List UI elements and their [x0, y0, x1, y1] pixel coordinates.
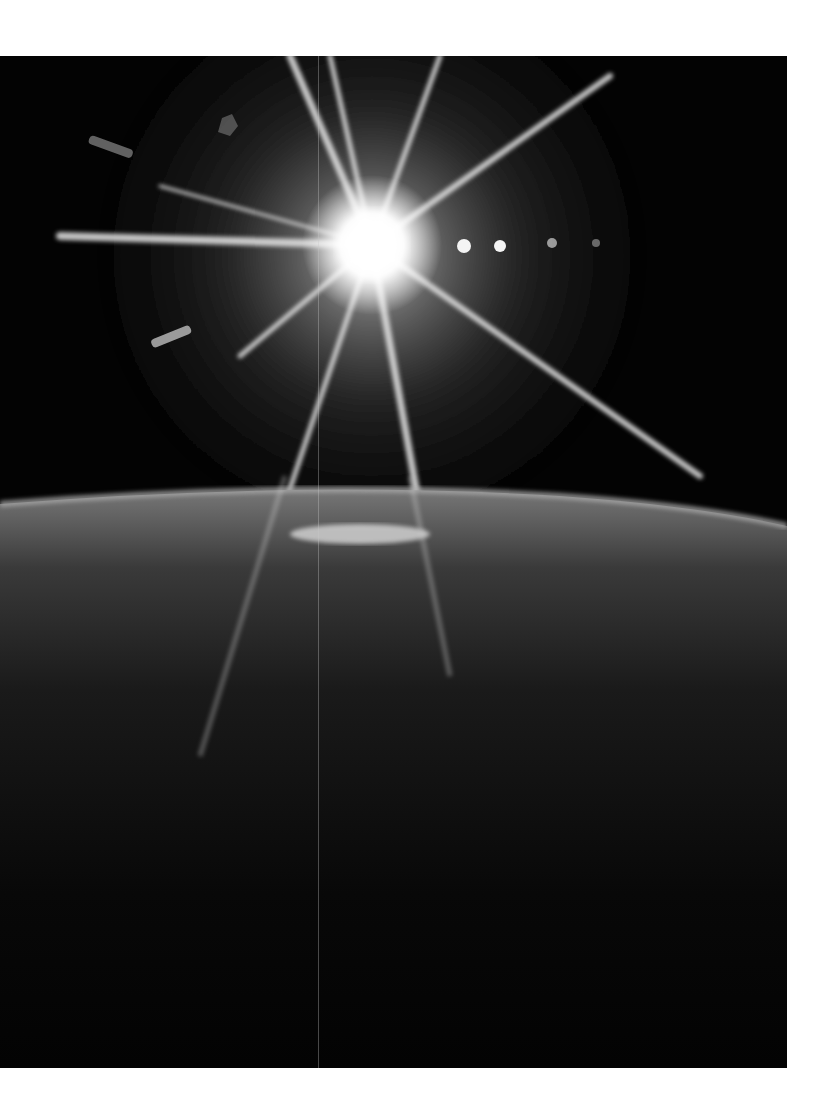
earth-sunrise-photo: [0, 56, 787, 1068]
earth: [0, 490, 787, 1068]
page-gutter-line: [318, 56, 319, 1068]
photo-illustration: [0, 56, 787, 1068]
